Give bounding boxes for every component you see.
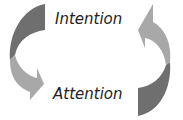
- intention-label: Intention: [55, 10, 122, 28]
- right-curved-arrow-icon: [138, 4, 170, 116]
- left-curved-arrow-icon: [10, 4, 45, 100]
- attention-label: Attention: [53, 85, 123, 103]
